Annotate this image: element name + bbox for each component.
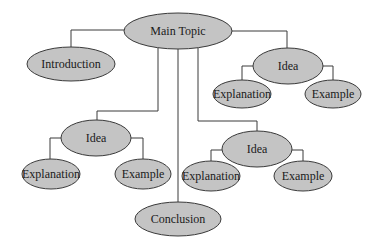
node-example-center[interactable]: Example	[274, 161, 332, 191]
node-label: Main Topic	[150, 24, 205, 38]
edge-idea2-explanation	[50, 138, 61, 159]
node-example-left[interactable]: Example	[115, 159, 171, 189]
edge-idea2-example	[131, 138, 143, 159]
node-introduction[interactable]: Introduction	[27, 47, 115, 81]
node-label: Example	[312, 87, 355, 101]
node-explanation-center[interactable]: Explanation	[182, 161, 240, 191]
edge-main-idea1	[232, 31, 287, 48]
concept-map: Main Topic Introduction Idea Explanation…	[0, 0, 381, 249]
node-idea-center[interactable]: Idea	[222, 131, 292, 167]
node-idea-right[interactable]: Idea	[253, 48, 323, 84]
node-explanation-left[interactable]: Explanation	[22, 159, 80, 189]
node-main-topic[interactable]: Main Topic	[124, 13, 232, 49]
node-label: Introduction	[41, 57, 100, 71]
node-label: Explanation	[213, 87, 271, 101]
node-label: Explanation	[182, 169, 240, 183]
edge-idea3-example	[292, 150, 303, 161]
node-label: Idea	[86, 131, 107, 145]
node-conclusion[interactable]: Conclusion	[135, 202, 221, 236]
edge-idea1-explanation	[242, 66, 253, 80]
node-label: Example	[122, 167, 165, 181]
node-label: Example	[282, 169, 325, 183]
edge-main-intro	[71, 30, 124, 47]
node-label: Explanation	[22, 167, 80, 181]
node-label: Idea	[247, 142, 268, 156]
edge-idea3-explanation	[211, 150, 222, 161]
node-explanation-right[interactable]: Explanation	[213, 80, 271, 108]
node-label: Conclusion	[151, 212, 206, 226]
edge-idea1-example	[322, 66, 333, 80]
node-idea-left[interactable]: Idea	[61, 120, 131, 156]
node-label: Idea	[278, 59, 299, 73]
node-example-right[interactable]: Example	[305, 80, 361, 108]
